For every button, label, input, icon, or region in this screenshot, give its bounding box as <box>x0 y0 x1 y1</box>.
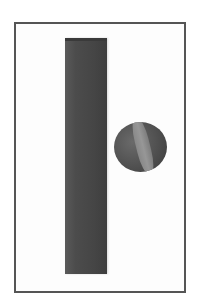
vertical-bar <box>65 38 107 274</box>
sphere <box>114 122 167 172</box>
bar-top-edge <box>65 38 107 41</box>
sphere-band <box>129 122 156 172</box>
